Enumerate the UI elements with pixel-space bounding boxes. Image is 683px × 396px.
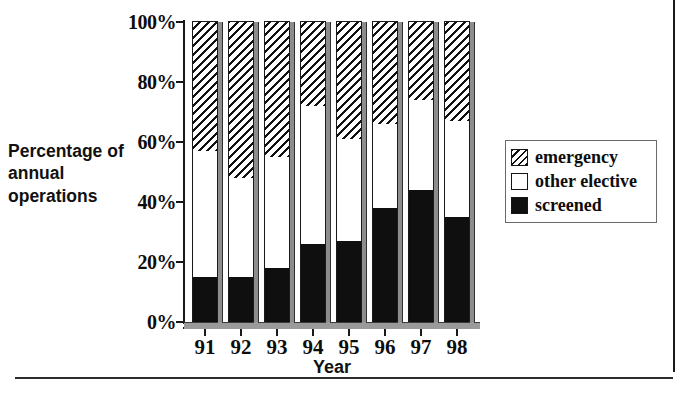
bar-segment-94-screened — [300, 244, 326, 322]
x-tick-label-98: 98 — [437, 337, 477, 358]
bars-plot-area — [184, 22, 474, 322]
bar-segment-98-screened — [444, 217, 470, 322]
bar-segment-98-emergency — [444, 22, 470, 121]
legend-swatch-screened-icon — [511, 197, 528, 214]
bar-segment-97-emergency — [408, 22, 434, 100]
legend-label-screened: screened — [535, 196, 602, 214]
bar-base-shadow — [470, 322, 474, 327]
bar-side-face — [434, 22, 439, 322]
bar-segment-edge — [228, 21, 254, 22]
legend-swatch-emergency-icon — [511, 149, 528, 166]
bar-side-face — [254, 22, 259, 322]
bar-segment-edge — [444, 21, 470, 22]
x-tick-label-97: 97 — [401, 337, 441, 358]
bar-93 — [264, 22, 294, 322]
bar-side-face — [290, 22, 295, 322]
bar-segment-93-emergency — [264, 22, 290, 157]
y-tick-label-0: 0% — [104, 312, 176, 332]
bar-base-shadow — [326, 322, 330, 327]
bar-base-shadow — [398, 322, 402, 327]
bar-segment-91-other-elective — [192, 151, 218, 277]
y-tick-label-40: 40% — [104, 192, 176, 212]
bar-base-shadow — [362, 322, 366, 327]
x-tick-label-92: 92 — [221, 337, 261, 358]
x-tick-label-93: 93 — [257, 337, 297, 358]
bar-segment-96-other-elective — [372, 124, 398, 208]
bar-segment-91-emergency — [192, 22, 218, 151]
y-tick-label-60: 60% — [104, 132, 176, 152]
bar-side-face — [398, 22, 403, 322]
x-axis-title: Year — [184, 357, 480, 378]
legend-item-screened: screened — [511, 193, 651, 217]
y-axis-tick-labels: 100% 80% 60% 40% 20% 0% — [96, 0, 176, 396]
bar-segment-97-other-elective — [408, 100, 434, 190]
legend-item-other-elective: other elective — [511, 169, 651, 193]
bar-side-face — [470, 22, 475, 322]
bar-96 — [372, 22, 402, 322]
page-right-rule — [673, 0, 675, 372]
bar-segment-93-screened — [264, 268, 290, 322]
bar-segment-97-screened — [408, 190, 434, 322]
y-tick-label-100: 100% — [104, 12, 176, 32]
x-tick-label-94: 94 — [293, 337, 333, 358]
bar-segment-edge — [372, 21, 398, 22]
bar-side-face — [326, 22, 331, 322]
bar-91 — [192, 22, 222, 322]
bar-segment-edge — [300, 21, 326, 22]
x-tick-label-96: 96 — [365, 337, 405, 358]
bar-segment-94-other-elective — [300, 106, 326, 244]
y-tick-label-80: 80% — [104, 72, 176, 92]
bar-segment-94-emergency — [300, 22, 326, 106]
bar-segment-95-emergency — [336, 22, 362, 139]
bar-segment-95-screened — [336, 241, 362, 322]
bar-98 — [444, 22, 474, 322]
bar-side-face — [218, 22, 223, 322]
bar-segment-edge — [336, 21, 362, 22]
bar-segment-edge — [192, 21, 218, 22]
bar-segment-95-other-elective — [336, 139, 362, 241]
legend-swatch-other-elective-icon — [511, 173, 528, 190]
legend-label-other-elective: other elective — [535, 172, 637, 190]
bar-base-shadow — [218, 322, 222, 327]
bar-side-face — [362, 22, 367, 322]
y-tick-label-20: 20% — [104, 252, 176, 272]
bar-base-shadow — [254, 322, 258, 327]
bar-base-shadow — [290, 322, 294, 327]
bar-segment-98-other-elective — [444, 121, 470, 217]
legend-label-emergency: emergency — [535, 148, 618, 166]
bar-segment-92-other-elective — [228, 178, 254, 277]
x-tick-label-91: 91 — [185, 337, 225, 358]
bar-segment-92-emergency — [228, 22, 254, 178]
bar-segment-93-other-elective — [264, 157, 290, 268]
legend-item-emergency: emergency — [511, 145, 651, 169]
bar-95 — [336, 22, 366, 322]
bar-segment-96-emergency — [372, 22, 398, 124]
bar-segment-92-screened — [228, 277, 254, 322]
bar-base-shadow — [434, 322, 438, 327]
bar-segment-96-screened — [372, 208, 398, 322]
chart-legend: emergency other elective screened — [505, 140, 657, 223]
x-tick-label-95: 95 — [329, 337, 369, 358]
bar-segment-91-screened — [192, 277, 218, 322]
bar-segment-edge — [408, 21, 434, 22]
bar-segment-edge — [264, 21, 290, 22]
bar-97 — [408, 22, 438, 322]
bar-94 — [300, 22, 330, 322]
bar-92 — [228, 22, 258, 322]
